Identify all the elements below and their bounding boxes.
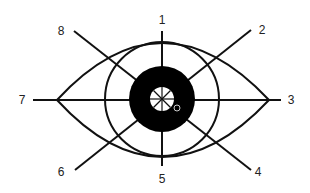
direction-label-5: 5: [159, 173, 166, 185]
direction-label-6: 6: [58, 166, 65, 178]
direction-label-2: 2: [259, 24, 266, 36]
direction-label-8: 8: [58, 25, 65, 37]
direction-label-3: 3: [288, 94, 295, 106]
direction-label-1: 1: [159, 14, 166, 26]
direction-label-7: 7: [19, 94, 26, 106]
direction-label-4: 4: [255, 166, 262, 178]
